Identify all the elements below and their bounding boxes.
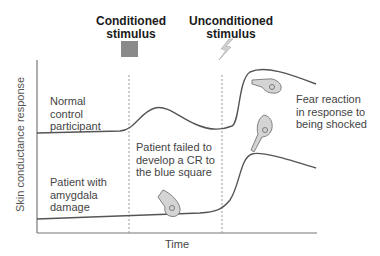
y-axis-label: Skin conductance response: [14, 77, 26, 212]
failed-cr-annotation: Patient failed to develop a CR to the bl…: [136, 141, 215, 179]
x-axis-label: Time: [165, 238, 189, 251]
pointing-hand-icon: [252, 79, 281, 93]
gray-square-icon: [121, 41, 138, 57]
lightning-bolt-icon: [219, 39, 233, 60]
pointing-hand-icon: [158, 190, 180, 217]
fear-reaction-annotation: Fear reaction in response to being shock…: [296, 93, 367, 131]
amygdala-damage-label: Patient with amygdala damage: [50, 176, 107, 214]
pointing-hand-icon: [251, 115, 272, 152]
normal-control-label: Normal control participant: [50, 95, 101, 133]
